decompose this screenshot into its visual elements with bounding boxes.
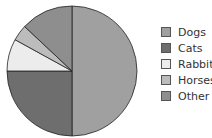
pie-slice-dogs (72, 6, 137, 136)
pie-chart (0, 0, 150, 138)
legend-item-other: Other (161, 88, 212, 104)
legend-item-cats: Cats (161, 40, 212, 56)
legend-swatch-horses (161, 75, 171, 85)
legend-label: Rabbits (178, 58, 212, 71)
legend-label: Horses (178, 74, 212, 87)
legend-swatch-cats (161, 43, 171, 53)
legend-label: Cats (178, 42, 202, 55)
legend-swatch-dogs (161, 27, 171, 37)
legend-item-rabbits: Rabbits (161, 56, 212, 72)
pie-slice-cats (7, 71, 72, 136)
legend-swatch-other (161, 91, 171, 101)
legend-label: Other (178, 90, 209, 103)
legend: Dogs Cats Rabbits Horses Other (161, 24, 212, 104)
legend-item-dogs: Dogs (161, 24, 212, 40)
legend-swatch-rabbits (161, 59, 171, 69)
legend-label: Dogs (178, 26, 206, 39)
legend-item-horses: Horses (161, 72, 212, 88)
